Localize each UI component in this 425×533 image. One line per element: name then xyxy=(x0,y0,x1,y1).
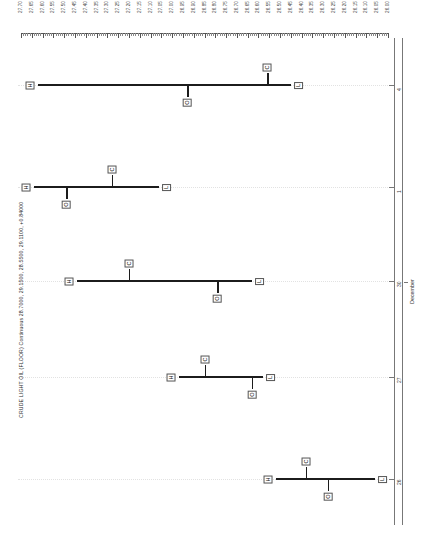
price-minor-tick xyxy=(153,33,154,36)
price-minor-tick xyxy=(27,33,28,36)
open-tick xyxy=(217,281,219,293)
price-minor-tick xyxy=(265,33,266,36)
series-title: CRUDE LIGHT OIL (FLOOR) Continuous 28.70… xyxy=(18,202,24,418)
price-minor-tick xyxy=(114,33,115,36)
price-minor-tick xyxy=(49,33,50,36)
price-tick-label: 26.05 xyxy=(374,1,379,13)
price-tick xyxy=(21,33,22,38)
price-tick xyxy=(205,33,206,38)
price-minor-tick xyxy=(271,33,272,36)
high-label: H xyxy=(21,183,30,191)
price-minor-tick xyxy=(306,33,307,36)
price-minor-tick xyxy=(384,33,385,36)
month-tick xyxy=(404,282,408,283)
price-minor-tick xyxy=(47,33,48,36)
price-minor-tick xyxy=(157,33,158,36)
high-label: H xyxy=(166,373,175,381)
high-label: H xyxy=(65,277,74,285)
price-minor-tick xyxy=(187,33,188,36)
price-minor-tick xyxy=(131,33,132,36)
price-tick-label: 27.55 xyxy=(50,1,55,13)
price-minor-tick xyxy=(163,33,164,36)
price-minor-tick xyxy=(297,33,298,36)
price-minor-tick xyxy=(101,33,102,36)
date-tick-label: 26 xyxy=(396,479,402,485)
price-minor-tick xyxy=(110,33,111,36)
price-minor-tick xyxy=(373,33,374,36)
price-tick xyxy=(302,33,303,38)
price-minor-tick xyxy=(77,33,78,36)
high-low-line xyxy=(276,478,375,480)
date-tick xyxy=(389,281,395,282)
price-minor-tick xyxy=(68,33,69,36)
price-tick-label: 26.70 xyxy=(234,1,239,13)
price-minor-tick xyxy=(170,33,171,36)
price-minor-tick xyxy=(79,33,80,36)
plot-area: HLOCHLOCHLOCHLOCHLOC xyxy=(0,46,425,533)
price-tick-label: 27.45 xyxy=(72,1,77,13)
close-tick xyxy=(205,365,207,377)
price-minor-tick xyxy=(263,33,264,36)
price-tick xyxy=(345,33,346,38)
price-minor-tick xyxy=(321,33,322,36)
price-tick xyxy=(53,33,54,38)
month-label: December xyxy=(409,279,415,304)
price-minor-tick xyxy=(62,33,63,36)
price-tick xyxy=(97,33,98,38)
price-tick xyxy=(86,33,87,38)
price-minor-tick xyxy=(217,33,218,36)
price-tick xyxy=(291,33,292,38)
price-minor-tick xyxy=(299,33,300,36)
price-tick-label: 26.85 xyxy=(202,1,207,13)
price-minor-tick xyxy=(315,33,316,36)
price-minor-tick xyxy=(347,33,348,36)
date-tick-label: 1 xyxy=(396,190,402,193)
low-label: L xyxy=(378,476,387,483)
price-minor-tick xyxy=(230,33,231,36)
price-minor-tick xyxy=(278,33,279,36)
open-label: O xyxy=(248,390,257,398)
price-minor-tick xyxy=(127,33,128,36)
open-tick xyxy=(328,479,330,491)
price-tick-label: 27.10 xyxy=(148,1,153,13)
price-minor-tick xyxy=(181,33,182,36)
price-tick-label: 26.35 xyxy=(309,1,314,13)
price-minor-tick xyxy=(148,33,149,36)
price-tick xyxy=(32,33,33,38)
price-minor-tick xyxy=(375,33,376,36)
price-minor-tick xyxy=(287,33,288,36)
price-tick-label: 26.80 xyxy=(212,1,217,13)
price-tick-label: 26.95 xyxy=(180,1,185,13)
low-label: L xyxy=(162,184,171,191)
close-tick xyxy=(112,175,114,187)
price-minor-tick xyxy=(81,33,82,36)
price-minor-tick xyxy=(144,33,145,36)
price-tick-label: 26.90 xyxy=(191,1,196,13)
price-tick xyxy=(312,33,313,38)
high-label: H xyxy=(263,475,272,483)
price-minor-tick xyxy=(241,33,242,36)
price-minor-tick xyxy=(23,33,24,36)
price-tick-label: 27.65 xyxy=(29,1,34,13)
price-minor-tick xyxy=(211,33,212,36)
price-tick-label: 26.75 xyxy=(223,1,228,13)
price-tick-label: 27.25 xyxy=(115,1,120,13)
price-minor-tick xyxy=(174,33,175,36)
price-tick xyxy=(269,33,270,38)
price-minor-tick xyxy=(125,33,126,36)
price-minor-tick xyxy=(166,33,167,36)
price-minor-tick xyxy=(116,33,117,36)
price-minor-tick xyxy=(60,33,61,36)
price-minor-tick xyxy=(224,33,225,36)
price-tick-label: 27.60 xyxy=(40,1,45,13)
price-minor-tick xyxy=(382,33,383,36)
price-minor-tick xyxy=(228,33,229,36)
price-tick-label: 27.70 xyxy=(18,1,23,13)
price-minor-tick xyxy=(379,33,380,36)
price-minor-tick xyxy=(332,33,333,36)
price-tick xyxy=(161,33,162,38)
price-minor-tick xyxy=(120,33,121,36)
price-minor-tick xyxy=(349,33,350,36)
price-minor-tick xyxy=(51,33,52,36)
price-minor-tick xyxy=(185,33,186,36)
